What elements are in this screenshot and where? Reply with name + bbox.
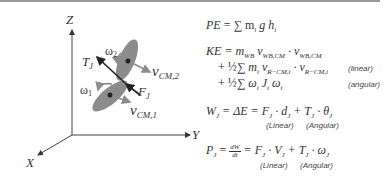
z-axis-label: Z	[66, 12, 74, 27]
force-label: FJ	[137, 84, 150, 101]
power-linear-note: (Linear)	[260, 161, 288, 170]
linear-note-ke: (linear)	[348, 64, 373, 73]
y-axis-label: Y	[192, 127, 200, 142]
omega1-label: ω1	[80, 83, 92, 98]
body-segment-diagram: Z Y X TJ FJ ω2 ω1 vCM,2 vCM,1	[0, 0, 200, 182]
kinetic-energy-line-2: + ½∑ mi vR−CM,i · vR−CM,i	[218, 60, 328, 76]
work-equation: WJ = ΔE = FJ · dJ + TJ · θJ	[206, 104, 332, 120]
angular-note-ke: (angular)	[348, 80, 380, 89]
vcm1-label: vCM,1	[130, 102, 157, 120]
work-linear-note: (Linear)	[266, 121, 294, 130]
dw-dt-fraction: dWdt	[229, 144, 240, 159]
kinetic-energy-line-1: KE = mWB vWB,CM · vWB,CM	[206, 44, 322, 60]
kinetic-energy-line-3: + ½∑ ωi Ji ωi	[218, 76, 282, 92]
power-angular-note: (Angular)	[300, 161, 333, 170]
work-angular-note: (Angular)	[306, 121, 339, 130]
x-axis	[38, 135, 72, 155]
potential-energy-equation: PE = ∑ mi g hi	[206, 18, 276, 34]
equations-panel: PE = ∑ mi g hi KE = mWB vWB,CM · vWB,CM …	[206, 0, 392, 182]
power-equation: PJ = dWdt = FJ · VJ + TJ · ωJ	[206, 143, 329, 159]
vcm2-arrow	[130, 62, 150, 72]
vcm2-label: vCM,2	[152, 63, 179, 81]
omega2-label: ω2	[105, 44, 117, 59]
torque-label: TJ	[82, 54, 93, 71]
x-axis-label: X	[25, 155, 35, 170]
